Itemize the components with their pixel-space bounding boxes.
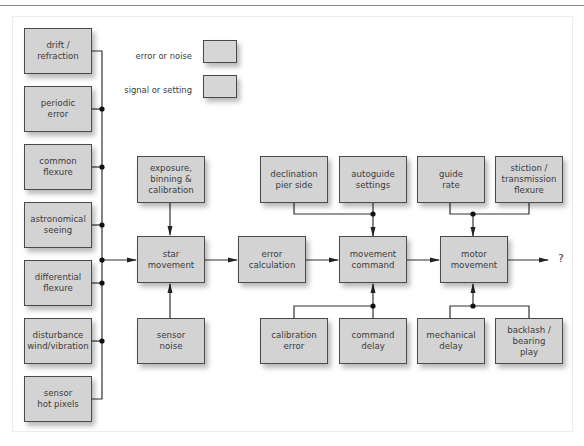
node-common-flexure: common flexure (24, 144, 92, 190)
node-error-calculation: error calculation (238, 236, 306, 283)
legend-swatch-signal (203, 75, 237, 98)
node-calibration-error: calibration error (260, 318, 328, 364)
node-autoguide-settings: autoguide settings (339, 156, 407, 203)
node-sensor-hot-pixels: sensor hot pixels (24, 376, 92, 422)
node-backlash-bearing-play: backlash / bearing play (495, 318, 563, 364)
node-sensor-noise: sensor noise (137, 318, 205, 364)
node-movement-command: movement command (339, 236, 407, 283)
legend-swatch-error (203, 40, 237, 63)
node-stiction-transmission-flexure: stiction / transmission flexure (495, 156, 563, 203)
legend-label-signal: signal or setting (124, 85, 192, 95)
legend-label-error: error or noise (136, 51, 192, 61)
node-exposure-binning-calibration: exposure, binning & calibration (137, 156, 205, 203)
node-disturbance: disturbance wind/vibration (24, 318, 92, 364)
node-motor-movement: motor movement (440, 236, 508, 283)
node-periodic-error: periodic error (24, 86, 92, 132)
output-unknown: ? (558, 252, 564, 265)
node-differential-flexure: differential flexure (24, 260, 92, 306)
node-guide-rate: guide rate (417, 156, 485, 203)
node-mechanical-delay: mechanical delay (417, 318, 485, 364)
node-declination-pier-side: declination pier side (260, 156, 328, 203)
node-astronomical-seeing: astronomical seeing (24, 202, 92, 248)
node-command-delay: command delay (339, 318, 407, 364)
node-drift-refraction: drift / refraction (24, 28, 92, 74)
node-star-movement: star movement (137, 236, 205, 283)
